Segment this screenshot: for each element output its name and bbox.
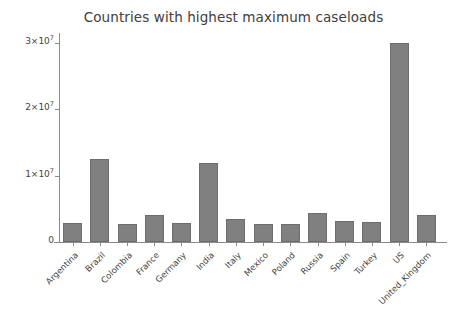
x-axis-tick-label-text: Brazil xyxy=(83,250,107,274)
bar xyxy=(145,215,164,242)
chart-figure: Countries with highest maximum caseloads… xyxy=(0,0,467,316)
y-axis-tick-mark xyxy=(55,43,59,44)
plot-area: 01×1072×1073×107 ArgentinaBrazilColombia… xyxy=(59,33,440,242)
x-axis-tick-mark xyxy=(345,242,346,246)
bar xyxy=(199,163,218,242)
x-axis-tick-mark xyxy=(181,242,182,246)
x-axis-tick-mark xyxy=(372,242,373,246)
bar xyxy=(362,222,381,242)
x-axis-tick-label-text: US xyxy=(391,250,406,265)
x-axis-tick-mark xyxy=(263,242,264,246)
y-axis-tick-mark xyxy=(55,109,59,110)
bar xyxy=(226,219,245,242)
y-axis-tick-label: 1×107 xyxy=(25,169,54,179)
bar xyxy=(63,223,82,242)
bar xyxy=(118,224,137,242)
bar xyxy=(254,224,273,242)
y-axis-tick-label: 3×107 xyxy=(25,36,54,46)
y-axis-tick-label: 2×107 xyxy=(25,102,54,112)
y-axis-spine xyxy=(59,33,60,242)
x-axis-tick-mark xyxy=(290,242,291,246)
bar xyxy=(281,224,300,242)
x-axis-tick-mark xyxy=(426,242,427,246)
x-axis-tick-mark xyxy=(236,242,237,246)
bar xyxy=(390,43,409,242)
bar xyxy=(335,221,354,242)
x-axis-tick-mark xyxy=(399,242,400,246)
y-axis-tick-mark xyxy=(55,242,59,243)
y-axis-tick-mark xyxy=(55,176,59,177)
y-axis-tick-label: 0 xyxy=(48,235,54,245)
x-axis-tick-mark xyxy=(154,242,155,246)
bar xyxy=(308,213,327,242)
chart-title: Countries with highest maximum caseloads xyxy=(0,9,467,25)
x-axis-tick-mark xyxy=(209,242,210,246)
x-axis-tick-mark xyxy=(100,242,101,246)
x-axis-tick-label-text: India xyxy=(194,250,216,272)
bar xyxy=(417,215,436,242)
x-axis-tick-mark xyxy=(73,242,74,246)
bar xyxy=(90,159,109,242)
x-axis-tick-mark xyxy=(318,242,319,246)
x-axis-tick-label-text: Italy xyxy=(223,250,243,270)
x-axis-spine xyxy=(54,242,447,243)
bar xyxy=(172,223,191,242)
x-axis-tick-label-text: United_Kingdom xyxy=(377,250,433,306)
x-axis-tick-mark xyxy=(127,242,128,246)
x-axis-tick-label-text: Spain xyxy=(328,250,352,274)
